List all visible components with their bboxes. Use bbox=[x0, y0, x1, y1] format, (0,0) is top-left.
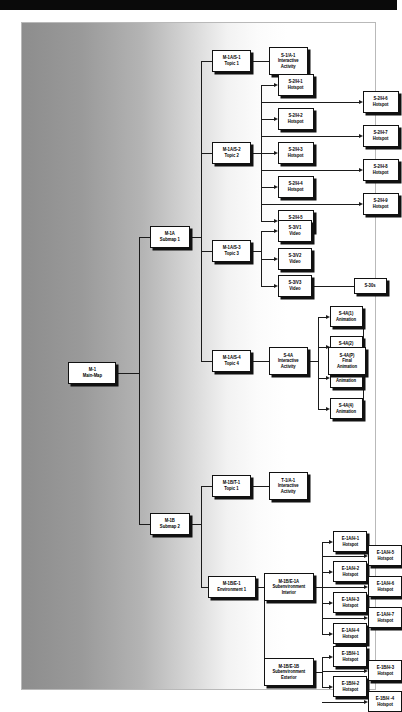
node-s2-h4[interactable]: S-2/H-4 Hotspot bbox=[278, 176, 314, 198]
node-t1-a1[interactable]: T-1/A-1 Interactive Activity bbox=[269, 472, 308, 500]
node-s1-a1[interactable]: S-1/A-1 Interactive Activity bbox=[269, 47, 308, 75]
node-label: E-1B/H-2 Hotspot bbox=[341, 681, 358, 692]
node-e1a-h7[interactable]: E-1A/H-7 Hotspot bbox=[368, 607, 402, 628]
node-s4a4[interactable]: S-4A(4) Animation bbox=[330, 398, 363, 419]
connector bbox=[261, 85, 274, 86]
node-label: E-1A/H-3 Hotspot bbox=[341, 597, 358, 608]
connector bbox=[322, 618, 364, 619]
node-label: E-1B/H-1 Hotspot bbox=[341, 651, 358, 662]
connector bbox=[116, 373, 139, 374]
node-m1a-s3[interactable]: M-1A/S-3 Topic 3 bbox=[212, 240, 251, 262]
node-s2-h7[interactable]: S-2/H-7 Hotspot bbox=[363, 125, 399, 147]
node-label: S-2/H-8 Hotspot bbox=[373, 164, 389, 175]
node-label: S-3/V3 Video bbox=[289, 280, 302, 291]
connector bbox=[322, 687, 329, 688]
node-e1a-h1[interactable]: E-1A/H-1 Hotspot bbox=[333, 531, 367, 552]
connector bbox=[314, 587, 322, 588]
connector bbox=[261, 221, 274, 222]
node-s30s[interactable]: S-30s bbox=[354, 278, 387, 294]
node-e1a-h2[interactable]: E-1A/H-2 Hotspot bbox=[333, 561, 367, 582]
node-m1b-t1[interactable]: M-1B/T-1 Topic 1 bbox=[212, 475, 251, 497]
node-s4a[interactable]: S-4A Interactive Activity bbox=[269, 347, 308, 375]
node-label: M-1 Main-Map bbox=[82, 367, 101, 378]
node-e1b-h2[interactable]: E-1B/H-2 Hotspot bbox=[333, 676, 367, 697]
flowchart-page: M-1 Main-Map M-1A Submap 1 M-1B Submap 2… bbox=[21, 22, 376, 690]
node-label: E-1A/H-4 Hotspot bbox=[341, 628, 358, 639]
node-s2-h8[interactable]: S-2/H-8 Hotspot bbox=[363, 159, 399, 181]
connector bbox=[261, 153, 274, 154]
node-label: E-1A/H-2 Hotspot bbox=[341, 566, 358, 577]
top-black-bar bbox=[0, 0, 397, 10]
node-e1b-h4[interactable]: E-1B/H -4 Hotspot bbox=[368, 691, 402, 712]
connector bbox=[314, 672, 322, 673]
node-e1a-h6[interactable]: E-1A/H-6 Hotspot bbox=[368, 576, 402, 597]
node-label: E-1A/H-6 Hotspot bbox=[376, 581, 393, 592]
node-s3-v1[interactable]: S-3/V1 Video bbox=[278, 220, 312, 242]
connector bbox=[322, 603, 329, 604]
node-s3-v2[interactable]: S-3/V2 Video bbox=[278, 248, 312, 270]
node-m1[interactable]: M-1 Main-Map bbox=[68, 362, 116, 384]
node-label: S-3/V1 Video bbox=[289, 225, 302, 236]
connector bbox=[261, 231, 274, 232]
node-s4ap[interactable]: S-4A(P) Final Animation bbox=[328, 347, 366, 375]
connector bbox=[201, 361, 212, 362]
node-e1a-h5[interactable]: E-1A/H-5 Hotspot bbox=[368, 545, 402, 566]
connector bbox=[322, 671, 364, 672]
connector bbox=[139, 237, 150, 238]
connector bbox=[261, 119, 274, 120]
node-label: E-1A/H-7 Hotspot bbox=[376, 612, 393, 623]
node-e1b-h3[interactable]: E-1B/H-3 Hotspot bbox=[368, 660, 402, 681]
node-label: M-1B/E-1A Subenvironment Interior bbox=[273, 579, 306, 596]
connector bbox=[190, 237, 201, 238]
connector bbox=[251, 153, 261, 154]
node-e1a-h3[interactable]: E-1A/H-3 Hotspot bbox=[333, 592, 367, 613]
node-label: M-1B/E-1B Subenvironment Exterior bbox=[273, 664, 306, 681]
connector bbox=[322, 657, 329, 658]
node-label: S-2/H-4 Hotspot bbox=[288, 181, 304, 192]
node-s2-h6[interactable]: S-2/H-6 Hotspot bbox=[363, 91, 399, 113]
node-label: S-3/V2 Video bbox=[289, 253, 302, 264]
node-label: M-1A/S-1 Topic 1 bbox=[223, 55, 241, 66]
node-s2-h9[interactable]: S-2/H-9 Hotspot bbox=[363, 193, 399, 215]
node-m1a[interactable]: M-1A Submap 1 bbox=[150, 226, 190, 248]
node-s2-h2[interactable]: S-2/H-2 Hotspot bbox=[278, 108, 314, 130]
connector bbox=[322, 634, 329, 635]
node-m1b-e1b[interactable]: M-1B/E-1B Subenvironment Exterior bbox=[264, 658, 314, 686]
connector bbox=[190, 524, 201, 525]
node-m1a-s2[interactable]: M-1A/S-2 Topic 2 bbox=[212, 142, 251, 164]
node-s4a1[interactable]: S-4A(1) Animation bbox=[330, 306, 363, 327]
connector bbox=[201, 486, 212, 487]
connector bbox=[139, 237, 140, 524]
node-label: M-1A/S-4 Topic 4 bbox=[223, 355, 241, 366]
connector bbox=[261, 136, 359, 137]
node-e1a-h4[interactable]: E-1A/H-4 Hotspot bbox=[333, 623, 367, 644]
node-m1a-s4[interactable]: M-1A/S-4 Topic 4 bbox=[212, 350, 251, 372]
node-s3-v3[interactable]: S-3/V3 Video bbox=[278, 275, 312, 297]
node-label: M-1B/T-1 Topic 1 bbox=[223, 480, 240, 491]
connector bbox=[139, 524, 150, 525]
node-m1b[interactable]: M-1B Submap 2 bbox=[150, 513, 190, 535]
connector bbox=[318, 347, 326, 348]
node-label: M-1A/S-2 Topic 2 bbox=[223, 147, 241, 158]
node-m1b-e1a[interactable]: M-1B/E-1A Subenvironment Interior bbox=[264, 573, 314, 601]
connector bbox=[256, 587, 264, 588]
node-s2-h3[interactable]: S-2/H-3 Hotspot bbox=[278, 142, 314, 164]
node-s2-h1[interactable]: S-2/H-1 Hotspot bbox=[278, 74, 314, 96]
node-label: T-1/A-1 Interactive Activity bbox=[278, 478, 299, 495]
connector bbox=[251, 361, 269, 362]
connector bbox=[261, 187, 274, 188]
node-label: E-1B/H -4 Hotspot bbox=[376, 696, 394, 707]
connector bbox=[201, 153, 212, 154]
connector bbox=[318, 409, 326, 410]
connector bbox=[201, 486, 202, 587]
connector bbox=[322, 587, 364, 588]
connector bbox=[251, 61, 269, 62]
node-label: S-1/A-1 Interactive Activity bbox=[278, 53, 299, 70]
node-label: S-2/H-2 Hotspot bbox=[288, 113, 304, 124]
node-e1b-h1[interactable]: E-1B/H-1 Hotspot bbox=[333, 646, 367, 667]
node-m1b-e1[interactable]: M-1B/E-1 Environment 1 bbox=[208, 576, 256, 598]
node-m1a-s1[interactable]: M-1A/S-1 Topic 1 bbox=[212, 50, 251, 72]
connector bbox=[261, 286, 274, 287]
node-label: S-4A(1) Animation bbox=[336, 311, 356, 322]
